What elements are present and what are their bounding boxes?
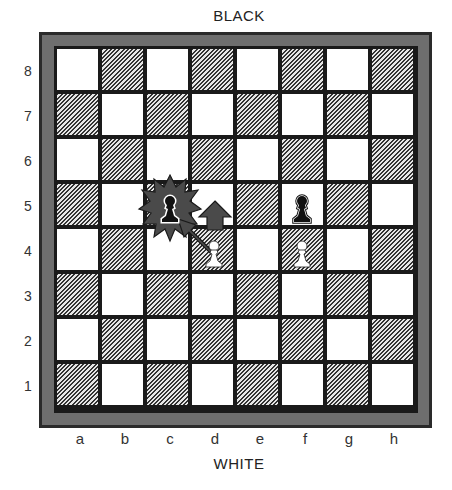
white-pawn-d4-icon — [206, 241, 222, 267]
black-pawn-f5-icon — [294, 196, 310, 222]
white-pawn-f4-icon — [294, 241, 310, 267]
advance-arrow-icon — [199, 201, 231, 230]
board-overlay — [0, 0, 452, 490]
